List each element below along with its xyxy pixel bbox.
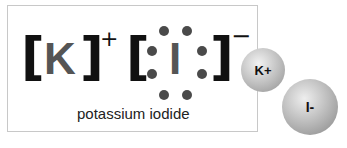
compound-caption: potassium iodide: [77, 105, 190, 122]
electron-dot-left-upper: [147, 46, 157, 56]
lewis-structure-panel: [ K ] + [ I ] − potassium iodide: [7, 5, 258, 132]
potassium-symbol: K: [44, 34, 76, 84]
electron-dot-top-right: [182, 26, 192, 36]
iodide-ion-label: I-: [306, 99, 315, 115]
cation-left-bracket: [: [21, 26, 45, 86]
anion-charge: −: [231, 22, 251, 50]
iodine-symbol: I: [169, 34, 181, 84]
iodide-ion-sphere: I-: [282, 79, 338, 135]
electron-dot-right-upper: [197, 46, 207, 56]
electron-dot-bottom-right: [182, 90, 192, 100]
electron-dot-right-lower: [197, 69, 207, 79]
electron-dot-bottom-left: [159, 90, 169, 100]
potassium-ion-sphere: K+: [241, 48, 285, 92]
electron-dot-top-left: [159, 26, 169, 36]
potassium-ion-label: K+: [255, 63, 272, 78]
cation-charge: +: [100, 26, 118, 51]
anion-left-bracket: [: [126, 26, 150, 86]
electron-dot-left-lower: [147, 69, 157, 79]
